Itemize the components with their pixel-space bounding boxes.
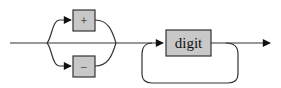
syntax-diagram: + − digit xyxy=(0,0,281,88)
plus-label: + xyxy=(81,14,88,28)
minus-label: − xyxy=(81,60,88,74)
digit-node: digit xyxy=(166,30,211,56)
minus-branch-in xyxy=(47,43,71,66)
minus-branch-out xyxy=(95,43,116,66)
plus-node: + xyxy=(73,10,95,31)
plus-branch-in xyxy=(47,20,71,43)
minus-node: − xyxy=(73,56,95,77)
digit-label: digit xyxy=(175,35,203,51)
plus-branch-out xyxy=(95,20,116,43)
